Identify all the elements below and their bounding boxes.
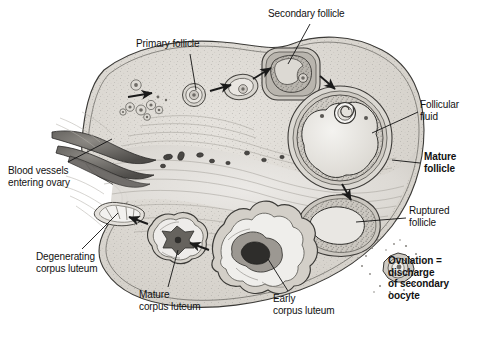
ovary-body — [52, 37, 425, 307]
primary-follicle — [183, 84, 206, 107]
label-mature-corpus-luteum: Mature corpus luteum — [139, 289, 201, 312]
mature-graafian-follicle — [288, 86, 392, 190]
label-ruptured-follicle: Ruptured follicle — [409, 205, 449, 228]
secondary-oocyte-in-follicle — [335, 103, 356, 124]
label-follicular-fluid: Follicular fluid — [420, 99, 459, 122]
ovary-diagram: Secondary follicle Primary follicle Foll… — [0, 0, 478, 345]
label-primary-follicle: Primary follicle — [136, 38, 199, 50]
label-degenerating-corpus-luteum: Degenerating corpus luteum — [36, 251, 98, 274]
secondary-follicle — [262, 48, 320, 100]
label-ovulation-note: Ovulation = discharge of secondary oocyt… — [388, 255, 449, 301]
label-mature-follicle: Mature follicle — [424, 151, 456, 174]
label-early-corpus-luteum: Early corpus luteum — [273, 293, 335, 316]
label-blood-vessels: Blood vessels entering ovary — [8, 165, 70, 188]
label-secondary-follicle: Secondary follicle — [268, 8, 345, 20]
